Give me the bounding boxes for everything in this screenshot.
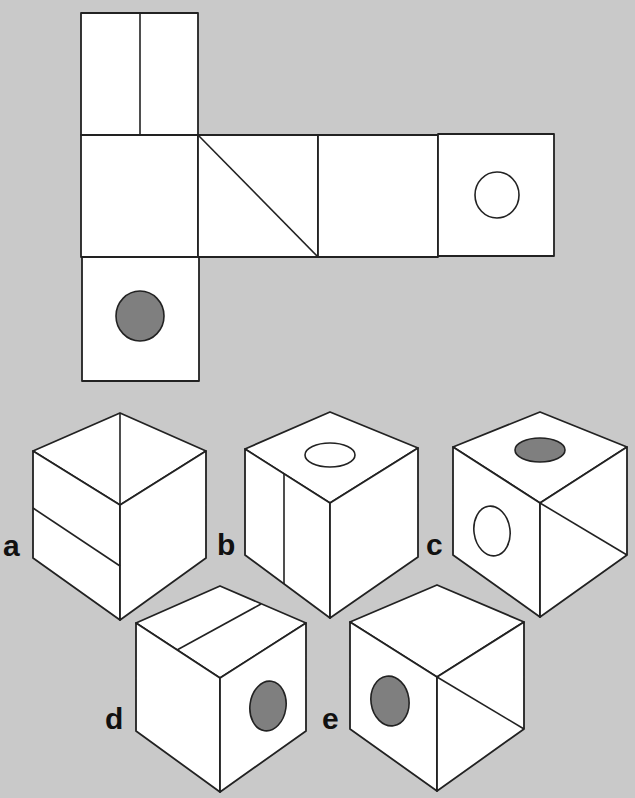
option-b[interactable]: b <box>217 412 418 618</box>
option-label-b: b <box>217 528 235 561</box>
puzzle-canvas: a b c d e <box>0 0 635 798</box>
option-label-a: a <box>3 529 20 562</box>
option-c[interactable]: c <box>426 412 627 617</box>
open-circle-icon <box>305 443 355 467</box>
open-circle-icon <box>475 172 519 218</box>
net-square-top <box>81 13 198 135</box>
filled-circle-icon <box>515 438 565 462</box>
option-label-d: d <box>105 702 123 735</box>
option-label-c: c <box>426 528 443 561</box>
cube-net <box>81 13 554 381</box>
net-square-bottom <box>82 257 199 381</box>
net-square-middle-1 <box>81 135 198 257</box>
option-d[interactable]: d <box>105 586 306 792</box>
option-label-e: e <box>322 702 339 735</box>
net-square-middle-2 <box>198 135 318 257</box>
net-square-middle-4 <box>438 134 554 256</box>
net-square-middle-3 <box>318 135 438 257</box>
option-a[interactable]: a <box>3 413 206 620</box>
filled-circle-icon <box>116 291 164 341</box>
option-e[interactable]: e <box>322 585 524 791</box>
